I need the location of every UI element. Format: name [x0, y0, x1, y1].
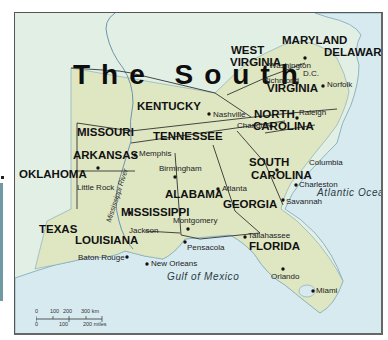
scale-mi-0: 0 [35, 322, 38, 328]
city-label-nashville: Nashville [213, 111, 245, 119]
edge-mark [1, 176, 4, 179]
city-label-raleigh: Raleigh [299, 109, 326, 117]
city-label-pensacola: Pensacola [187, 244, 224, 252]
scale-km-100: 100 [50, 309, 59, 315]
city-label-norfolk: Norfolk [327, 81, 352, 89]
scale-km-200: 200 [63, 309, 72, 315]
city-label-little-rock: Little Rock [77, 184, 114, 192]
city-label-atlanta: Atlanta [222, 185, 247, 193]
city-label-savannah: Savannah [286, 198, 322, 206]
scale-mi-200: 200 miles [83, 322, 107, 328]
water-label-gulf: Gulf of Mexico [167, 272, 239, 282]
scale-km-0: 0 [35, 309, 38, 315]
city-label-orlando: Orlando [271, 273, 299, 281]
city-label-dc: D.C. [303, 70, 319, 78]
city-label-jackson: Jackson [129, 227, 158, 235]
scale-bar: 0 100 200 300 km 0 100 200 miles [35, 309, 135, 329]
edge-strip [0, 183, 3, 301]
city-label-baton-rouge: Baton Rouge [78, 254, 125, 262]
city-label-montgomery: Montgomery [173, 217, 217, 225]
city-label-birmingham: Birmingham [159, 165, 202, 173]
city-label-miami: Miami [316, 287, 337, 295]
city-label-charlotte: Charlotte [237, 122, 269, 130]
map-frame: The South WEST VIRGINIA MARYLAND DELAWAR… [14, 12, 383, 335]
water-label-atlantic: Atlantic Ocean [317, 188, 383, 198]
scale-mi-100: 100 [59, 322, 68, 328]
city-label-tallahassee: Tallahassee [248, 232, 290, 240]
city-label-new-orleans: New Orleans [151, 260, 197, 268]
city-label-columbia: Columbia [309, 159, 343, 167]
scale-km-300: 300 km [81, 309, 99, 315]
city-label-memphis: Memphis [139, 150, 171, 158]
city-label-richmond: Richmond [263, 77, 299, 85]
